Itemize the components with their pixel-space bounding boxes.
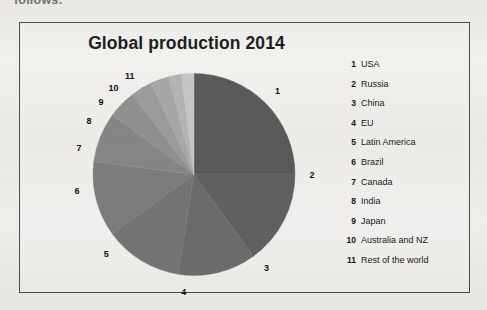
pie-slice-number: 3 [264, 263, 269, 273]
legend-item: 9Japan [341, 216, 461, 236]
legend-item: 7Canada [341, 177, 461, 197]
pie-slice-number: 10 [108, 83, 118, 93]
legend-item-key: 2 [341, 79, 361, 89]
legend-item-key: 7 [341, 177, 361, 187]
pie-slice-number: 4 [181, 287, 186, 297]
legend-item: 3China [341, 98, 461, 118]
legend-item: 11Rest of the world [341, 255, 461, 275]
legend-item-label: India [361, 196, 381, 206]
pie-slice-number: 9 [98, 97, 103, 107]
pie-slice-number: 8 [86, 116, 91, 126]
legend-item-key: 11 [341, 255, 361, 265]
legend-item-label: EU [361, 118, 374, 128]
legend-item-label: Canada [361, 177, 393, 187]
legend-item-label: Australia and NZ [361, 235, 428, 245]
legend-item-key: 3 [341, 98, 361, 108]
clipped-body-text: follows: [14, 0, 63, 9]
legend-item-label: Japan [361, 216, 386, 226]
legend: 1USA2Russia3China4EU5Latin America6Brazi… [341, 59, 461, 275]
legend-item-key: 1 [341, 59, 361, 69]
scanned-page: follows: Global production 2014 12345678… [0, 0, 487, 310]
legend-item-label: USA [361, 59, 380, 69]
legend-item-label: Brazil [361, 157, 384, 167]
legend-item: 2Russia [341, 79, 461, 99]
legend-item-key: 8 [341, 196, 361, 206]
legend-item-label: Latin America [361, 137, 416, 147]
legend-item-key: 9 [341, 216, 361, 226]
pie-slice-number: 7 [76, 143, 81, 153]
legend-item-label: China [361, 98, 385, 108]
legend-item: 10Australia and NZ [341, 235, 461, 255]
pie-slice-number: 6 [75, 186, 80, 196]
legend-item: 5Latin America [341, 137, 461, 157]
legend-item-key: 5 [341, 137, 361, 147]
legend-item-key: 10 [341, 235, 361, 245]
pie-chart: 1234567891011 [20, 23, 355, 294]
legend-item: 6Brazil [341, 157, 461, 177]
legend-item-label: Russia [361, 79, 389, 89]
legend-item-label: Rest of the world [361, 255, 429, 265]
legend-item-key: 6 [341, 157, 361, 167]
pie-slice-number: 1 [275, 86, 280, 96]
legend-item: 8India [341, 196, 461, 216]
pie-slice-number: 2 [309, 170, 314, 180]
pie-chart-svg [20, 23, 355, 294]
legend-item-key: 4 [341, 118, 361, 128]
figure-frame: Global production 2014 1234567891011 1US… [19, 22, 470, 293]
legend-item: 1USA [341, 59, 461, 79]
pie-slice-number: 5 [104, 249, 109, 259]
legend-item: 4EU [341, 118, 461, 138]
pie-slice-number: 11 [125, 71, 135, 81]
